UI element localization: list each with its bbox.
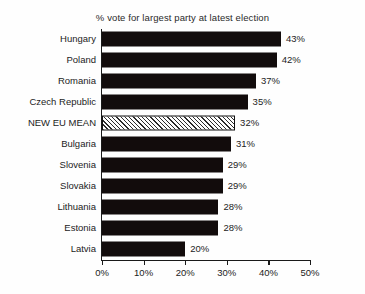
bar-row: Slovenia29%: [0, 155, 365, 176]
bar: [102, 136, 231, 151]
x-axis-tick: [227, 261, 228, 265]
category-label: Slovenia: [0, 160, 96, 170]
chart-title: % vote for largest party at latest elect…: [0, 12, 365, 23]
bar-row: Slovakia29%: [0, 176, 365, 197]
bar: [102, 158, 223, 173]
bar-row: Czech Republic35%: [0, 91, 365, 112]
bar: [102, 179, 223, 194]
category-label: Romania: [0, 76, 96, 86]
bar-row: NEW EU MEAN32%: [0, 112, 365, 133]
bar: [102, 242, 185, 257]
y-axis-line: [101, 29, 102, 261]
value-label: 28%: [223, 224, 242, 234]
x-axis-tick: [268, 261, 269, 265]
value-label: 37%: [261, 76, 280, 86]
x-axis-line: [102, 260, 311, 261]
bar-row: Estonia28%: [0, 218, 365, 239]
chart-figure: % vote for largest party at latest elect…: [0, 0, 365, 294]
category-label: Poland: [0, 55, 96, 65]
bar-row: Romania37%: [0, 70, 365, 91]
category-label: Bulgaria: [0, 139, 96, 149]
x-axis-tick-label: 50%: [300, 267, 319, 278]
bar: [102, 221, 218, 236]
value-label: 29%: [228, 160, 247, 170]
x-axis-tick: [185, 261, 186, 265]
category-label: Lithuania: [0, 203, 96, 213]
plot-area: Hungary43%Poland42%Romania37%Czech Repub…: [0, 28, 365, 260]
value-label: 42%: [282, 55, 301, 65]
value-label: 29%: [228, 181, 247, 191]
value-label: 31%: [236, 139, 255, 149]
bar-row: Poland42%: [0, 49, 365, 70]
bar-row: Latvia20%: [0, 239, 365, 260]
category-label: Latvia: [0, 245, 96, 255]
category-label: Czech Republic: [0, 97, 96, 107]
value-label: 20%: [190, 245, 209, 255]
bar: [102, 200, 218, 215]
value-label: 28%: [223, 203, 242, 213]
category-label: NEW EU MEAN: [0, 118, 96, 128]
x-axis-tick: [102, 261, 103, 265]
category-label: Slovakia: [0, 181, 96, 191]
bar-row: Hungary43%: [0, 28, 365, 49]
bar: [102, 115, 235, 130]
value-label: 35%: [253, 97, 272, 107]
x-axis-tick-label: 10%: [134, 267, 153, 278]
x-axis-tick: [310, 261, 311, 265]
bar-row: Bulgaria31%: [0, 133, 365, 154]
bar: [102, 73, 256, 88]
x-axis-tick-label: 30%: [217, 267, 236, 278]
x-axis-tick-label: 20%: [176, 267, 195, 278]
bar: [102, 52, 277, 67]
x-axis-tick-label: 0%: [95, 267, 109, 278]
value-label: 32%: [240, 118, 259, 128]
bar: [102, 31, 281, 46]
value-label: 43%: [286, 34, 305, 44]
category-label: Hungary: [0, 34, 96, 44]
x-axis-tick: [144, 261, 145, 265]
bar-row: Lithuania28%: [0, 197, 365, 218]
bar: [102, 94, 248, 109]
x-axis-tick-label: 40%: [259, 267, 278, 278]
category-label: Estonia: [0, 224, 96, 234]
